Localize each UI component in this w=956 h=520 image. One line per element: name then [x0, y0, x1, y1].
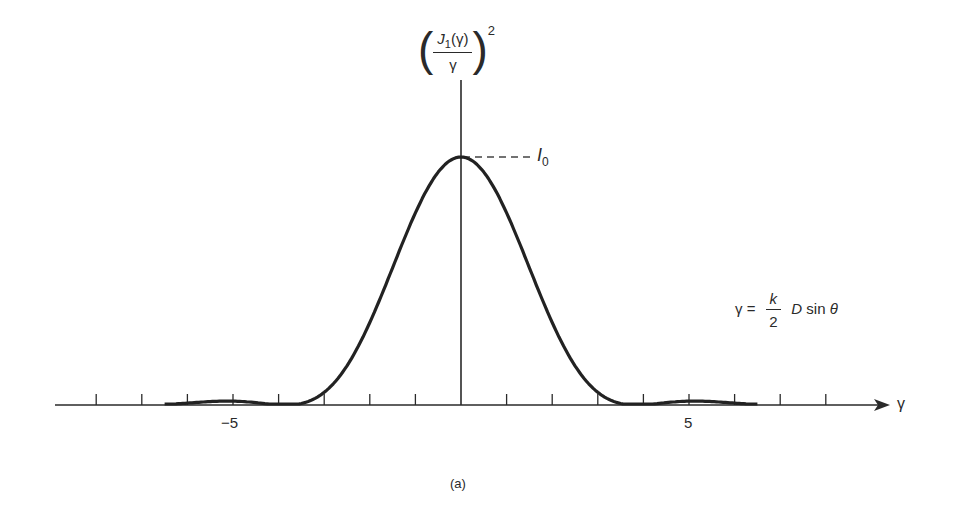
peak-subscript: 0 [542, 155, 549, 169]
equation-var-d: D [791, 300, 802, 317]
exponent: 2 [488, 23, 495, 38]
denominator: γ [449, 53, 457, 73]
equation-frac-den: 2 [769, 310, 777, 330]
equation-sin: sin [806, 300, 825, 317]
equation-frac-num: k [766, 290, 782, 310]
plot-canvas [0, 0, 956, 520]
panel-label: (a) [450, 476, 466, 491]
peak-label: I0 [537, 145, 549, 169]
gamma-definition-equation: γ = k2 D sin θ [735, 290, 838, 330]
tick-label-minus-5: −5 [221, 414, 238, 431]
x-axis-label: γ [897, 395, 905, 413]
equation-lhs: γ = [735, 300, 755, 317]
equation-theta: θ [830, 300, 838, 317]
tick-label-5: 5 [684, 414, 692, 431]
y-axis-label: (J1(γ)γ)2 [418, 24, 495, 78]
bessel-symbol: J [437, 30, 445, 47]
bessel-argument: (γ) [451, 30, 469, 47]
